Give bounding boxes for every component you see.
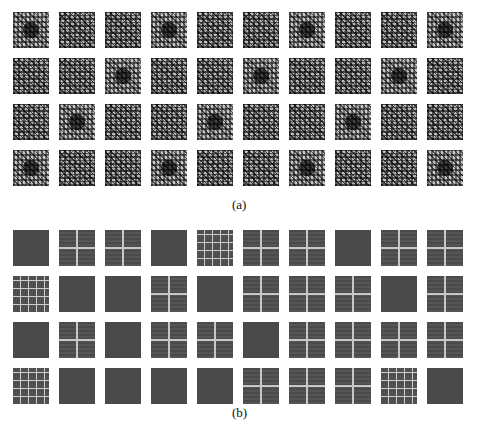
matrix-tile-b — [151, 368, 187, 404]
matrix-tile-b — [289, 276, 325, 312]
matrix-tile-a — [105, 12, 141, 48]
matrix-tile-b — [151, 322, 187, 358]
matrix-tile-b — [427, 322, 463, 358]
matrix-tile-a — [335, 58, 371, 94]
matrix-tile-a — [105, 58, 141, 94]
matrix-tile-a — [427, 58, 463, 94]
matrix-tile-b — [335, 322, 371, 358]
matrix-tile-b — [151, 230, 187, 266]
matrix-tile-b — [335, 230, 371, 266]
matrix-tile-b — [335, 368, 371, 404]
matrix-tile-a — [105, 150, 141, 186]
matrix-tile-b — [197, 322, 233, 358]
matrix-tile-b — [197, 230, 233, 266]
matrix-tile-a — [381, 12, 417, 48]
matrix-tile-b — [381, 276, 417, 312]
matrix-tile-b — [243, 276, 279, 312]
matrix-tile-a — [197, 150, 233, 186]
matrix-tile-a — [335, 150, 371, 186]
matrix-tile-b — [427, 368, 463, 404]
matrix-tile-a — [59, 104, 95, 140]
matrix-tile-a — [289, 150, 325, 186]
matrix-tile-a — [197, 12, 233, 48]
matrix-tile-a — [381, 58, 417, 94]
matrix-tile-a — [151, 12, 187, 48]
matrix-tile-b — [105, 322, 141, 358]
matrix-tile-a — [197, 104, 233, 140]
matrix-tile-b — [13, 322, 49, 358]
matrix-tile-a — [197, 58, 233, 94]
matrix-tile-b — [105, 368, 141, 404]
matrix-tile-a — [381, 104, 417, 140]
matrix-tile-a — [289, 104, 325, 140]
matrix-tile-a — [13, 104, 49, 140]
matrix-tile-a — [243, 12, 279, 48]
matrix-tile-a — [243, 104, 279, 140]
matrix-tile-a — [381, 150, 417, 186]
matrix-tile-b — [59, 230, 95, 266]
matrix-tile-a — [13, 58, 49, 94]
caption-a: (a) — [232, 197, 246, 213]
matrix-tile-a — [335, 12, 371, 48]
matrix-tile-b — [243, 322, 279, 358]
matrix-tile-a — [151, 104, 187, 140]
matrix-tile-a — [427, 150, 463, 186]
panel-a-grid — [13, 12, 463, 186]
matrix-tile-b — [197, 368, 233, 404]
matrix-tile-b — [335, 276, 371, 312]
matrix-tile-b — [289, 230, 325, 266]
matrix-tile-a — [243, 58, 279, 94]
matrix-tile-b — [289, 322, 325, 358]
matrix-tile-b — [13, 230, 49, 266]
matrix-tile-b — [381, 368, 417, 404]
matrix-tile-b — [13, 276, 49, 312]
matrix-tile-a — [13, 12, 49, 48]
matrix-tile-a — [151, 150, 187, 186]
matrix-tile-b — [197, 276, 233, 312]
matrix-tile-a — [289, 58, 325, 94]
matrix-tile-b — [105, 230, 141, 266]
matrix-tile-b — [427, 276, 463, 312]
matrix-tile-a — [427, 104, 463, 140]
matrix-tile-b — [243, 368, 279, 404]
matrix-tile-a — [13, 150, 49, 186]
caption-b: (b) — [232, 405, 247, 421]
matrix-tile-b — [289, 368, 325, 404]
matrix-tile-a — [105, 104, 141, 140]
matrix-tile-b — [13, 368, 49, 404]
matrix-tile-a — [289, 12, 325, 48]
matrix-tile-a — [151, 58, 187, 94]
matrix-tile-b — [59, 276, 95, 312]
matrix-tile-b — [381, 230, 417, 266]
matrix-tile-b — [427, 230, 463, 266]
matrix-tile-b — [381, 322, 417, 358]
matrix-tile-a — [59, 58, 95, 94]
matrix-tile-b — [151, 276, 187, 312]
matrix-tile-b — [59, 322, 95, 358]
matrix-tile-a — [335, 104, 371, 140]
matrix-tile-b — [59, 368, 95, 404]
matrix-tile-b — [105, 276, 141, 312]
matrix-tile-a — [427, 12, 463, 48]
matrix-tile-a — [59, 150, 95, 186]
panel-b-grid — [13, 230, 463, 404]
matrix-tile-a — [59, 12, 95, 48]
matrix-tile-a — [243, 150, 279, 186]
matrix-tile-b — [243, 230, 279, 266]
